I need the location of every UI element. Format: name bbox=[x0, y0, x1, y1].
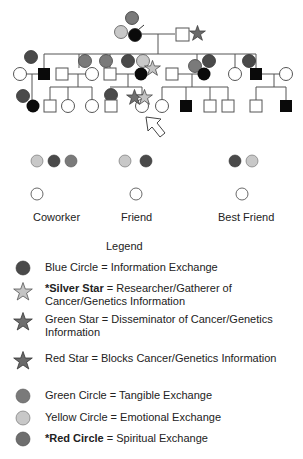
green-star-icon bbox=[12, 311, 34, 333]
silver-star-icon bbox=[12, 281, 34, 303]
red-star-icon bbox=[12, 350, 34, 372]
relation-coworker-dots bbox=[31, 155, 77, 200]
green-circle-icon bbox=[12, 387, 34, 409]
yellow-circle-icon bbox=[12, 409, 34, 431]
generation-1 bbox=[115, 12, 206, 42]
relation-label-best-friend: Best Friend bbox=[218, 211, 274, 223]
generation-2 bbox=[14, 51, 293, 81]
red-circle-icon bbox=[12, 430, 34, 452]
relation-label-coworker: Coworker bbox=[33, 211, 80, 223]
relation-label-friend: Friend bbox=[121, 211, 152, 223]
proband-arrow-icon bbox=[146, 117, 165, 137]
generation-3 bbox=[17, 89, 293, 113]
relation-best-friend-dots bbox=[229, 155, 258, 200]
relation-friend-dots bbox=[119, 155, 152, 200]
pedigree-diagram bbox=[0, 0, 303, 230]
blue-circle-icon bbox=[12, 259, 34, 281]
